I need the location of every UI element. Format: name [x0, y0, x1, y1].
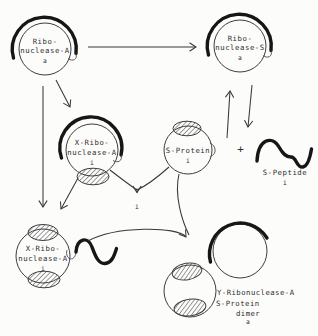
node-x-ribonuclease-a-complex: X-Ribo- nuclease-A i: [16, 225, 117, 288]
plus-sign: +: [237, 143, 244, 156]
s-peptide-subscript: i: [283, 179, 287, 186]
dimer-hatch-top-icon: [171, 261, 203, 283]
convergence-right-branch: [137, 167, 169, 190]
node-s-peptide: S-Peptide i: [257, 140, 312, 186]
s-protein-subscript: i: [186, 157, 190, 164]
convergence-left-branch: [110, 170, 137, 190]
bound-peptide-chain-icon: [76, 240, 117, 264]
complex-subscript: i: [41, 265, 45, 272]
node-x-ribonuclease-a: X-Ribo- nuclease-A i: [60, 117, 122, 185]
crosslink-hatch-top-icon: [28, 225, 58, 241]
arrow-products-to-rnaseS: [227, 91, 230, 138]
node-ribonuclease-s: Ribo- nuclease-S a: [207, 14, 271, 72]
s-protein-label: S-Protein: [166, 146, 211, 155]
peptide-cap-arc-icon: [209, 223, 267, 262]
dimer-upper-circle: [213, 224, 267, 278]
crosslink-hatch-icon: [77, 168, 109, 185]
arrow-rnaseS-to-products: [248, 85, 252, 127]
convergence-arrow: i: [110, 167, 169, 210]
complex-label-1: X-Ribo-: [26, 244, 61, 253]
curve-sprotein-to-dimer: [177, 174, 189, 235]
x-ribonuclease-a-label-1: X-Ribo-: [75, 138, 110, 147]
ribonuclease-s-subscript: a: [238, 54, 242, 61]
ribonuclease-a-label-1: Ribo-: [33, 37, 58, 46]
crosslink-hatch-bottom-icon: [28, 271, 60, 288]
arrow-complex-to-dimer: [88, 229, 186, 241]
s-peptide-label: S-Peptide: [263, 168, 308, 177]
node-ribonuclease-a: Ribo- nuclease-A a: [12, 17, 76, 75]
dimer-label-2: S-Protein: [216, 299, 260, 308]
tail-hook-icon: [210, 143, 215, 157]
ribonuclease-a-label-2: nuclease-A: [20, 46, 69, 55]
dimer-subscript: a: [246, 318, 250, 325]
s-peptide-chain-icon: [257, 140, 312, 167]
ribonuclease-s-label-2: nuclease-S: [215, 43, 264, 52]
binding-site-hatch-icon: [173, 121, 201, 136]
x-ribonuclease-a-label-2: nuclease-A: [67, 148, 116, 157]
intermediate-subscript: i: [135, 203, 139, 210]
ribonuclease-a-subscript: a: [43, 57, 47, 64]
arrow-rnaseA-to-xrnaseA: [56, 80, 70, 107]
x-ribonuclease-a-subscript: i: [90, 159, 94, 166]
reaction-diagram: Ribo- nuclease-A a Ribo- nuclease-S a X-…: [0, 0, 318, 336]
arrow-xrnaseA-to-complex: [61, 178, 78, 209]
dimer-label-1: Y-Ribonuclease-A: [217, 288, 295, 297]
ribonuclease-s-label-1: Ribo-: [228, 34, 253, 43]
dimer-hatch-bottom-icon: [173, 297, 207, 318]
node-s-protein: S-Protein i: [164, 121, 215, 174]
node-y-dimer: Y-Ribonuclease-A S-Protein dimer a: [164, 223, 295, 325]
diagram-canvas: Ribo- nuclease-A a Ribo- nuclease-S a X-…: [0, 0, 318, 336]
complex-label-2: nuclease-A: [18, 254, 67, 263]
dimer-label-3: dimer: [236, 309, 260, 318]
